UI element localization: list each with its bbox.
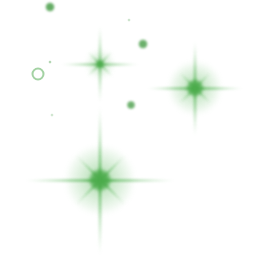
dot-top-left [46,3,55,12]
sparkle-right-ray-diagonal [179,72,212,105]
sparkle-upper-left [61,25,139,103]
sparkle-right-core [187,80,204,97]
sparkle-right-ray-axis [194,40,197,136]
sparkle-upper-left-ray-diagonal [86,50,113,77]
sparkles-canvas [0,0,256,269]
sparkle-right-halo [168,61,222,115]
dot-tiny-left [51,114,54,117]
dot-mid-right [127,101,135,109]
dot-tiny-top [128,19,131,22]
sparkle-bottom-center-ray-diagonal [75,155,125,205]
sparkle-bottom-center-ray-axis [25,179,175,182]
sparkle-upper-left-halo [86,50,115,79]
dot-upper-right [139,40,148,49]
sparkle-upper-left-core [96,60,105,69]
sparkle-bottom-center-core [89,169,111,191]
sparkle-bottom-center-ray-diagonal [75,155,125,205]
sparkle-bottom-center-halo [65,145,135,215]
dot-tiny-above-ring [49,61,52,64]
sparkle-right-ray-axis [147,87,243,90]
sparkle-right-ray-diagonal [179,72,212,105]
sparkle-bottom-center-ray-axis [99,105,102,255]
sparkle-upper-left-ray-axis [99,25,102,103]
ring-left [32,68,45,81]
sparkle-bottom-center [25,105,175,255]
sparkle-upper-left-ray-diagonal [86,50,113,77]
sparkle-right [147,40,243,136]
sparkle-upper-left-ray-axis [61,63,139,66]
